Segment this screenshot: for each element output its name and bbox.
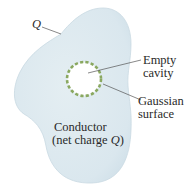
leader-line-surface-charge bbox=[42, 27, 61, 34]
conductor-label-line1: Conductor bbox=[54, 120, 108, 134]
conductor-label-var: Q bbox=[111, 133, 120, 147]
cavity-label-line1: Empty bbox=[143, 53, 177, 67]
cavity-label-line2: cavity bbox=[143, 66, 174, 80]
gaussian-label-line2: surface bbox=[138, 107, 175, 121]
gaussian-label-line1: Gaussian bbox=[138, 94, 185, 108]
conductor-diagram: Q Empty cavity Gaussian surface Conducto… bbox=[0, 0, 194, 188]
surface-charge-label: Q bbox=[32, 17, 41, 31]
conductor-label-suffix: ) bbox=[120, 133, 124, 147]
conductor-label-prefix: (net charge bbox=[52, 133, 111, 147]
conductor-body bbox=[14, 8, 131, 183]
conductor-label-line2: (net charge Q) bbox=[52, 133, 124, 147]
